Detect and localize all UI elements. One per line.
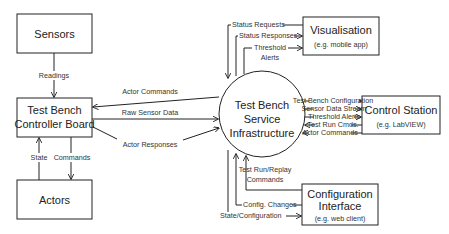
state-label: State [31,153,48,162]
sensors-label: Sensors [34,28,75,40]
edge-actor-commands-left: Actor Commands [93,87,221,110]
data-flow-diagram: Sensors Test Bench Controller Board Acto… [0,0,449,234]
edge-threshold-alerts-top: Threshold Alerts [244,43,302,74]
edge-actor-responses: Actor Responses [93,126,220,149]
controller-label-1: Test Bench [27,104,81,116]
config-label-1: Configuration [307,188,372,200]
controller-label-2: Controller Board [14,118,94,130]
edge-readings: Readings [36,53,72,97]
readings-label: Readings [39,71,70,80]
config-changes-label: Config. Changes [243,200,297,209]
commands-label: Commands [54,153,91,162]
state-configuration-label: State/Configuration [220,211,282,220]
edge-actor-commands-right: Actor Commands [302,128,362,137]
config-subtitle: (e.g. web client) [315,214,366,223]
service-label-1: Test Bench [235,99,289,111]
actors-node: Actors [17,180,92,219]
test-run-replay-label-2: Commands [247,175,284,184]
visualisation-subtitle: (e.g. mobile app) [314,40,368,49]
edge-commands: Commands [53,137,91,179]
status-responses-label: Status Responses [239,31,298,40]
threshold-alerts-top-label-2: Alerts [261,53,280,62]
edge-state: State [29,138,49,180]
test-run-replay-label-1: Test Run/Replay [239,165,292,174]
raw-sensor-data-label: Raw Sensor Data [122,108,178,117]
status-requests-label: Status Requests [232,20,285,29]
config-label-2: Interface [319,200,362,212]
service-label-2: Service [244,113,281,125]
service-label-3: Infrastructure [230,127,295,139]
actor-commands-right-label: Actor Commands [302,128,358,137]
configuration-interface-node: Configuration Interface (e.g. web client… [302,184,378,225]
edge-state-configuration: State/Configuration [218,150,301,220]
actors-label: Actors [39,194,71,206]
control-station-label: Control Station [365,104,438,116]
service-infrastructure-node: Test Bench Service Infrastructure [219,71,305,157]
threshold-alerts-top-label-1: Threshold [254,43,286,52]
edge-test-run-replay: Test Run/Replay Commands [239,156,302,190]
actor-commands-left-label: Actor Commands [122,87,178,96]
control-station-node: Control Station (e.g. LabVIEW) [362,96,440,134]
controller-board-node: Test Bench Controller Board [14,98,94,137]
visualisation-label: Visualisation [310,24,372,36]
control-station-subtitle: (e.g. LabVIEW) [376,120,425,129]
actor-responses-label: Actor Responses [123,140,178,149]
sensors-node: Sensors [17,14,92,53]
edge-raw-sensor-data: Raw Sensor Data [92,108,218,119]
visualisation-node: Visualisation (e.g. mobile app) [303,17,379,55]
